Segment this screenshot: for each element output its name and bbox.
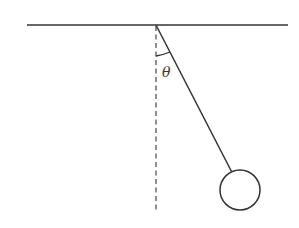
pendulum-string bbox=[156, 25, 232, 172]
pendulum-diagram: θ bbox=[0, 0, 299, 228]
angle-label: θ bbox=[162, 64, 171, 80]
angle-arc bbox=[156, 52, 170, 56]
pendulum-bob bbox=[220, 170, 260, 210]
